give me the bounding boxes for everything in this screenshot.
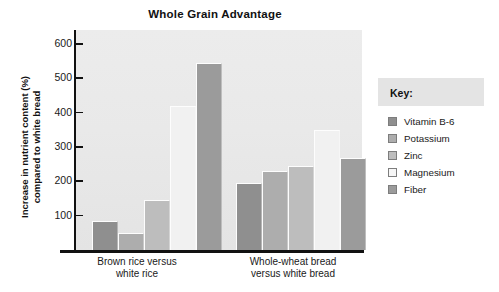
x-axis-group-label-1-line-1: versus white bread	[222, 268, 364, 280]
legend-swatch-icon	[388, 117, 397, 126]
x-axis-line	[60, 250, 364, 253]
y-axis-title-line-1: Increase in nutrient content (%)	[19, 32, 31, 262]
legend-swatch-icon	[388, 151, 397, 160]
bar-magnesium-group-0	[170, 106, 196, 250]
legend-item-potassium: Potassium	[388, 130, 496, 147]
bar-vitamin-b-6-group-0	[92, 221, 118, 250]
legend-swatch-icon	[388, 185, 397, 194]
legend-item-fiber: Fiber	[388, 181, 496, 198]
x-axis-group-label-1: Whole-wheat breadversus white bread	[222, 256, 364, 280]
legend: Key: Vitamin B-6PotassiumZincMagnesiumFi…	[378, 78, 496, 198]
legend-item-label: Potassium	[404, 133, 450, 144]
bar-zinc-group-1	[288, 166, 314, 250]
y-axis-title-line-2: compared to white bread	[31, 32, 43, 262]
legend-swatch-icon	[388, 168, 397, 177]
legend-item-label: Vitamin B-6	[404, 116, 454, 127]
bar-magnesium-group-1	[314, 130, 340, 250]
legend-item-vitamin-b-6: Vitamin B-6	[388, 113, 496, 130]
y-axis-title: Increase in nutrient content (%) compare…	[19, 32, 43, 262]
x-axis-group-label-0-line-0: Brown rice versus	[72, 256, 202, 268]
legend-item-label: Magnesium	[404, 167, 455, 178]
bar-potassium-group-1	[262, 171, 288, 250]
bar-potassium-group-0	[118, 233, 144, 250]
bars-layer	[76, 30, 362, 250]
legend-swatch-icon	[388, 134, 397, 143]
legend-item-zinc: Zinc	[388, 147, 496, 164]
chart-figure: Whole Grain Advantage Increase in nutrie…	[0, 0, 499, 292]
legend-title: Key:	[390, 87, 413, 99]
bar-fiber-group-1	[340, 158, 366, 250]
chart-title: Whole Grain Advantage	[60, 8, 370, 20]
legend-item-label: Zinc	[404, 150, 423, 161]
bar-vitamin-b-6-group-1	[236, 183, 262, 250]
legend-item-magnesium: Magnesium	[388, 164, 496, 181]
x-axis-group-label-0: Brown rice versuswhite rice	[72, 256, 202, 280]
legend-title-bar: Key:	[378, 78, 484, 106]
legend-item-label: Fiber	[404, 184, 426, 195]
legend-items: Vitamin B-6PotassiumZincMagnesiumFiber	[378, 113, 496, 198]
x-axis-group-label-1-line-0: Whole-wheat bread	[222, 256, 364, 268]
x-axis-group-label-0-line-1: white rice	[72, 268, 202, 280]
bar-zinc-group-0	[144, 200, 170, 250]
bar-fiber-group-0	[196, 63, 222, 250]
